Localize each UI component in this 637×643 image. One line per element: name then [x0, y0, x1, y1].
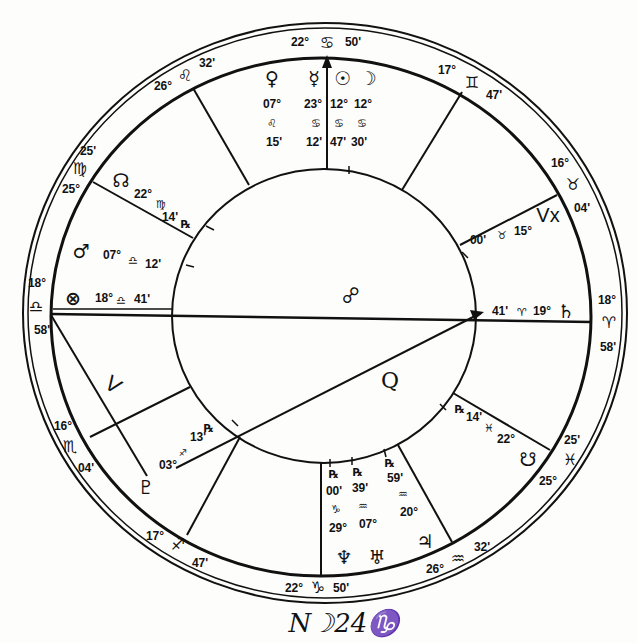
- mars-degree: 07°: [103, 248, 121, 262]
- cusp-8-sign-taurus-icon: ♉: [566, 175, 580, 194]
- cusp-3-line: [187, 437, 240, 535]
- ic-sign-capricorn-icon: ♑: [311, 578, 325, 597]
- sun-degree: 12°: [330, 97, 348, 111]
- ic-degree: 22°: [285, 581, 303, 595]
- mercury-minutes: 12': [306, 135, 322, 149]
- ic-minutes: 50': [333, 581, 349, 595]
- jupiter-sign-aquarius-icon: ♒: [398, 488, 408, 501]
- south-node-icon: ☋: [520, 448, 537, 470]
- cusp-2-sign-scorpio-icon: ♏: [63, 437, 77, 456]
- sun-minutes: 47': [330, 135, 346, 149]
- moon-icon: ☽: [359, 67, 376, 89]
- moon-sign-cancer-icon: ♋: [357, 117, 367, 130]
- cusp-5-minutes: 32': [474, 540, 490, 554]
- uranus-minutes: 39': [352, 481, 368, 495]
- sun-icon: ☉: [334, 67, 351, 89]
- cusp-11-sign-leo-icon: ♌: [178, 66, 192, 85]
- cusp-2-minutes: 04': [78, 461, 94, 475]
- jupiter-retrograde-icon: ℞: [385, 457, 395, 470]
- quincunx-aspect-icon: Q: [381, 368, 399, 393]
- vertex-degree: 15°: [514, 224, 532, 238]
- mc-sign-cancer-icon: ♋: [320, 33, 334, 52]
- cusp-12-sign-virgo-icon: ♍: [73, 159, 87, 178]
- cusp-2-line: [90, 387, 190, 437]
- moon-degree: 12°: [354, 97, 372, 111]
- natal-chart-wheel: 22° ♋ 50' ♀ 07° ♌ 15' ☿ 23° ♋ 12' ☉ 12° …: [0, 0, 637, 643]
- handwritten-note: N☽24♑: [288, 608, 405, 638]
- cusp-8-minutes: 04': [574, 201, 590, 215]
- asc-degree: 18°: [28, 276, 46, 290]
- south-node-retrograde-icon: ℞: [455, 403, 465, 416]
- saturn-sign-aries-icon: ♈: [517, 306, 527, 319]
- south-node-minutes: 14': [466, 410, 482, 424]
- south-node-sign-pisces-icon: ♓: [484, 422, 494, 435]
- cusp-3-sign-sagittarius-icon: ♐: [171, 535, 185, 554]
- cusp-5-degree: 26°: [426, 562, 444, 576]
- cusp-12-degree: 25°: [62, 182, 80, 196]
- mars-icon: ♂: [72, 240, 89, 262]
- venus-degree: 07°: [263, 97, 281, 111]
- vertex-sign-taurus-icon: ♉: [497, 229, 507, 242]
- sun-sign-cancer-icon: ♋: [334, 117, 344, 130]
- moon-minutes: 30': [351, 135, 367, 149]
- vertex-minutes: 00': [470, 233, 486, 247]
- venus-minutes: 15': [266, 135, 282, 149]
- mars-minutes: 12': [145, 257, 161, 271]
- north-node-icon: ☊: [113, 169, 130, 191]
- cusp-11-minutes: 32': [199, 56, 215, 70]
- neptune-degree: 29°: [329, 521, 347, 535]
- neptune-retrograde-icon: ℞: [329, 468, 339, 481]
- cusp-9-sign-gemini-icon: ♊: [465, 73, 479, 92]
- pluto-retrograde-icon: ℞: [204, 422, 214, 435]
- jupiter-degree: 20°: [400, 505, 418, 519]
- north-node-retrograde-icon: ℞: [181, 218, 191, 231]
- fortune-minutes: 41': [134, 292, 150, 306]
- venus-icon: ♀: [265, 67, 279, 89]
- north-node-degree: 22°: [134, 187, 152, 201]
- dsc-sign-aries-icon: ♈: [602, 313, 616, 332]
- saturn-degree: 19°: [533, 304, 551, 318]
- cusp-3-minutes: 47': [192, 556, 208, 570]
- horizon-axis-line: [51, 314, 591, 322]
- mercury-degree: 23°: [304, 97, 322, 111]
- uranus-retrograde-icon: ℞: [353, 466, 363, 479]
- neptune-minutes: 00': [326, 484, 342, 498]
- mercury-sign-cancer-icon: ♋: [311, 117, 321, 130]
- vertex-icon: Vx: [536, 204, 559, 226]
- uranus-icon: ♅: [368, 546, 385, 568]
- saturn-minutes: 41': [492, 304, 508, 318]
- cusp-12-minutes: 25': [80, 144, 96, 158]
- fortune-sign-libra-icon: ♎: [116, 294, 126, 307]
- cusp-8-degree: 16°: [551, 156, 569, 170]
- cusp-6-degree: 25°: [539, 474, 557, 488]
- venus-sign-leo-icon: ♌: [267, 117, 277, 130]
- cusp-11-degree: 26°: [154, 79, 172, 93]
- opposition-aspect-icon: ☍: [339, 282, 363, 308]
- mc-minutes: 50': [345, 35, 361, 49]
- pluto-icon: ♇: [137, 476, 154, 498]
- north-node-minutes: 14': [162, 210, 178, 224]
- pluto-sign-sagittarius-icon: ♐: [179, 448, 187, 458]
- cusp-9-degree: 17°: [438, 63, 456, 77]
- dsc-degree: 18°: [598, 293, 616, 307]
- asc-minutes: 58': [34, 323, 50, 337]
- pluto-degree: 03°: [159, 458, 177, 472]
- cusp-2-degree: 16°: [54, 419, 72, 433]
- neptune-sign-capricorn-icon: ♑: [331, 503, 341, 516]
- mercury-icon: ☿: [308, 67, 320, 89]
- jupiter-minutes: 59': [387, 471, 403, 485]
- semisextile-aspect-icon: V: [100, 370, 127, 399]
- uranus-degree: 07°: [359, 517, 377, 531]
- fortune-degree: 18°: [95, 291, 113, 305]
- cusp-9-minutes: 47': [486, 88, 502, 102]
- mc-degree: 22°: [291, 35, 309, 49]
- neptune-icon: ♆: [335, 546, 352, 568]
- dsc-minutes: 58': [600, 340, 616, 354]
- mars-sign-libra-icon: ♎: [128, 254, 138, 267]
- cusp-5-sign-aquarius-icon: ♒: [451, 549, 465, 568]
- saturn-icon: ♄: [557, 300, 574, 322]
- part-of-fortune-icon: ⊗: [65, 287, 81, 309]
- cusp-11-line: [193, 88, 249, 185]
- south-node-degree: 22°: [497, 432, 515, 446]
- cusp-3-degree: 17°: [146, 529, 164, 543]
